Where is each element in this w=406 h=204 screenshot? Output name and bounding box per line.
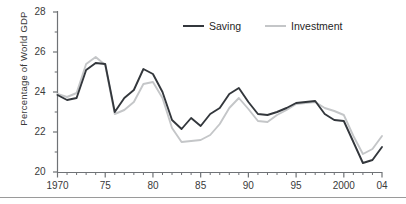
legend-label-investment: Investment — [291, 20, 342, 32]
data-series-lines — [58, 57, 383, 163]
y-axis-title: Percentage of World GDP — [18, 0, 29, 144]
legend-item-investment: Investment — [265, 20, 342, 32]
legend-swatch-investment — [265, 25, 286, 27]
x-tick-label: 90 — [228, 180, 268, 191]
y-tick-label: 26 — [24, 46, 46, 57]
y-tick-label: 20 — [24, 166, 46, 177]
x-tick-label: 80 — [133, 180, 173, 191]
y-tick-label: 28 — [24, 6, 46, 17]
y-axis-ticks — [53, 12, 58, 172]
y-tick-label: 24 — [24, 86, 46, 97]
chart-legend: Saving Investment — [183, 20, 342, 32]
x-tick-label: 1970 — [38, 180, 78, 191]
series-line-saving — [58, 63, 383, 163]
x-tick-label: 95 — [276, 180, 316, 191]
legend-item-saving: Saving — [183, 20, 241, 32]
y-tick-label: 22 — [24, 126, 46, 137]
x-tick-label: 85 — [181, 180, 221, 191]
axis-lines — [57, 11, 382, 173]
x-tick-label: 2000 — [324, 180, 364, 191]
legend-swatch-saving — [183, 25, 204, 27]
chart-figure: Percentage of World GDP 2022242628 19707… — [0, 0, 406, 204]
legend-label-saving: Saving — [209, 20, 241, 32]
footer-divider — [0, 197, 406, 198]
x-tick-label: 04 — [362, 180, 402, 191]
x-tick-label: 75 — [85, 180, 125, 191]
